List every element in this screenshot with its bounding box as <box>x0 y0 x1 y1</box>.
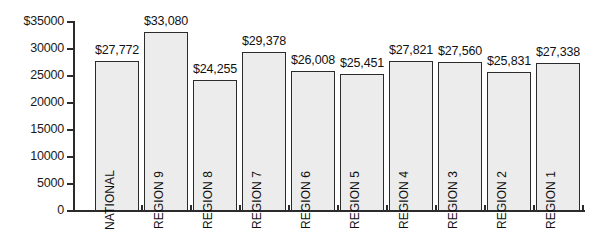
bar-group[interactable]: REGION 9 <box>144 32 188 211</box>
bar-value-label: $29,378 <box>242 34 286 48</box>
bar-value-label: $33,080 <box>144 14 188 28</box>
bar-category-label: REGION 8 <box>201 171 215 229</box>
bar-value-label: $25,831 <box>487 54 531 68</box>
bar-category-label: REGION 4 <box>397 171 411 229</box>
bar-value-label: $27,821 <box>389 43 433 57</box>
bar-group[interactable]: REGION 4 <box>389 61 433 211</box>
bar-value-label: $27,772 <box>95 43 139 57</box>
plot-area: NATIONAL$27,772REGION 9$33,080REGION 8$2… <box>0 0 610 233</box>
bar[interactable]: REGION 2 <box>487 72 531 211</box>
bar[interactable]: REGION 1 <box>536 63 580 211</box>
bar-group[interactable]: REGION 8 <box>193 80 237 211</box>
bar-category-label: REGION 3 <box>446 171 460 229</box>
bar-chart: $35000300002500020000150001000050000 NAT… <box>0 0 610 233</box>
bar[interactable]: REGION 9 <box>144 32 188 211</box>
bar-group[interactable]: REGION 6 <box>291 71 335 211</box>
bar-category-label: NATIONAL <box>103 170 117 230</box>
bar[interactable]: REGION 5 <box>340 74 384 211</box>
bar[interactable]: REGION 4 <box>389 61 433 211</box>
bar-value-label: $26,008 <box>291 53 335 67</box>
bar-value-label: $27,338 <box>536 45 580 59</box>
bar-group[interactable]: REGION 5 <box>340 74 384 211</box>
bar[interactable]: REGION 7 <box>242 52 286 211</box>
bar-category-label: REGION 6 <box>299 171 313 229</box>
bar[interactable]: REGION 8 <box>193 80 237 211</box>
bar-category-label: REGION 1 <box>544 171 558 229</box>
bar-value-label: $27,560 <box>438 44 482 58</box>
bar-value-label: $24,255 <box>193 62 237 76</box>
bar-group[interactable]: REGION 7 <box>242 52 286 211</box>
bar-category-label: REGION 7 <box>250 171 264 229</box>
bar-value-label: $25,451 <box>340 56 384 70</box>
bar[interactable]: NATIONAL <box>95 61 139 211</box>
bar-category-label: REGION 2 <box>495 171 509 229</box>
bar-group[interactable]: NATIONAL <box>95 61 139 211</box>
bar-category-label: REGION 5 <box>348 171 362 229</box>
bar-group[interactable]: REGION 3 <box>438 62 482 211</box>
bar[interactable]: REGION 3 <box>438 62 482 211</box>
bar-group[interactable]: REGION 1 <box>536 63 580 211</box>
bar[interactable]: REGION 6 <box>291 71 335 211</box>
bar-category-label: REGION 9 <box>152 171 166 229</box>
bar-group[interactable]: REGION 2 <box>487 72 531 211</box>
